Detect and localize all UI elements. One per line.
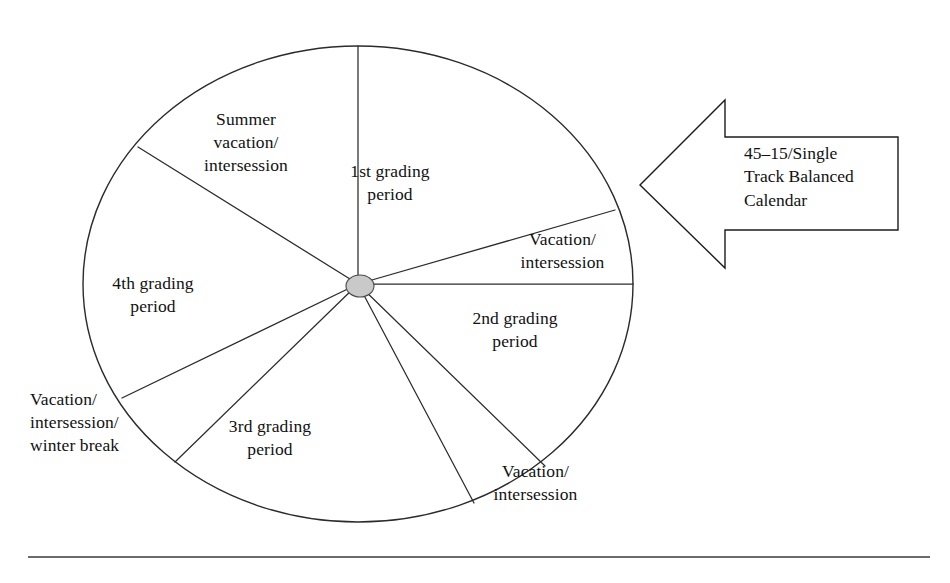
segment-label-third-grading-period: 3rd grading period bbox=[205, 415, 335, 461]
callout-label: 45–15/Single Track Balanced Calendar bbox=[744, 142, 914, 212]
segment-label-first-grading-period: 1st grading period bbox=[330, 160, 450, 206]
segment-label-vacation-intersession-1: Vacation/ intersession bbox=[495, 228, 630, 274]
segment-label-second-grading-period: 2nd grading period bbox=[450, 307, 580, 353]
center-hub bbox=[346, 275, 374, 297]
segment-label-summer-vacation: Summer vacation/ intersession bbox=[176, 108, 316, 177]
figure-root: 1st grading period Vacation/ intersessio… bbox=[0, 0, 950, 583]
segment-label-fourth-grading-period: 4th grading period bbox=[88, 272, 218, 318]
segment-label-vacation-winter-break: Vacation/ intersession/ winter break bbox=[30, 388, 180, 457]
segment-label-vacation-intersession-2: Vacation/ intersession bbox=[468, 460, 603, 506]
